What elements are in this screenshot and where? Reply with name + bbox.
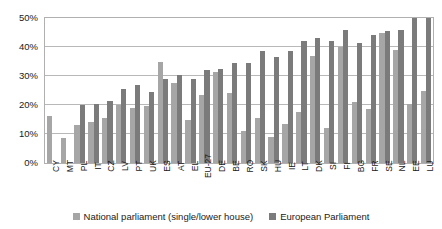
x-label-cell: MT	[59, 165, 73, 201]
x-label-cell: CZ	[100, 165, 114, 201]
chart-legend: National parliament (single/lower house)…	[0, 211, 442, 222]
y-tick-label: 20%	[19, 100, 38, 110]
bar	[135, 85, 140, 163]
bar	[80, 105, 85, 163]
bar-group	[211, 18, 225, 163]
x-label-cell: EU-27	[197, 165, 211, 201]
bar	[301, 41, 306, 163]
bar-group	[267, 18, 281, 163]
bar-group	[197, 18, 211, 163]
bar-group	[378, 18, 392, 163]
y-tick-label: 50%	[19, 13, 38, 23]
bar-group	[128, 18, 142, 163]
legend-item-national[interactable]: National parliament (single/lower house)	[73, 211, 254, 222]
bar-group	[87, 18, 101, 163]
bar	[412, 18, 417, 163]
x-label-cell: EE	[405, 165, 419, 201]
bar	[94, 104, 99, 163]
x-axis-labels: CYMTPLITCZLVPTUKESATELEU-27DEBEROSKHUIEL…	[45, 165, 433, 201]
x-label-cell: FR	[364, 165, 378, 201]
bar	[149, 92, 154, 163]
bar	[274, 57, 279, 163]
bar	[232, 63, 237, 163]
x-label-cell: SE	[378, 165, 392, 201]
bar	[260, 51, 265, 163]
bar-group	[59, 18, 73, 163]
bar-chart: 0%10%20%30%40%50% CYMTPLITCZLVPTUKESATEL…	[0, 0, 442, 229]
x-label-cell: UK	[142, 165, 156, 201]
bar-group	[405, 18, 419, 163]
bar	[426, 18, 431, 163]
bar	[288, 51, 293, 163]
y-axis: 0%10%20%30%40%50%	[0, 10, 42, 170]
x-label-cell: SI	[322, 165, 336, 201]
bar-group	[184, 18, 198, 163]
x-label-cell: DE	[211, 165, 225, 201]
legend-swatch-icon	[73, 213, 80, 220]
bar-group	[281, 18, 295, 163]
bar	[47, 116, 52, 163]
x-label-cell: IE	[281, 165, 295, 201]
bar	[177, 75, 182, 163]
bar-group	[170, 18, 184, 163]
bar-group	[142, 18, 156, 163]
x-label-cell: NL	[391, 165, 405, 201]
bar	[107, 101, 112, 163]
legend-label: European Parliament	[280, 211, 369, 222]
bar-group	[156, 18, 170, 163]
bar-group	[294, 18, 308, 163]
x-label-cell: CY	[45, 165, 59, 201]
y-tick-label: 0%	[24, 158, 38, 168]
bar	[357, 43, 362, 163]
x-label-cell: PL	[73, 165, 87, 201]
bar-group	[45, 18, 59, 163]
x-label-cell: IT	[87, 165, 101, 201]
bar	[343, 30, 348, 163]
bar-group	[239, 18, 253, 163]
y-tick-label: 10%	[19, 129, 38, 139]
bar	[204, 70, 209, 163]
bar-group	[225, 18, 239, 163]
x-label-cell: FI	[336, 165, 350, 201]
bar-group	[100, 18, 114, 163]
legend-swatch-icon	[269, 213, 276, 220]
bar	[218, 69, 223, 163]
x-label-cell: AT	[170, 165, 184, 201]
bar	[329, 41, 334, 163]
x-label-cell: PT	[128, 165, 142, 201]
bar-group	[391, 18, 405, 163]
bar-group	[253, 18, 267, 163]
bar-group	[308, 18, 322, 163]
x-label-cell: HU	[267, 165, 281, 201]
legend-item-european[interactable]: European Parliament	[269, 211, 369, 222]
x-label-cell: RO	[239, 165, 253, 201]
bar	[371, 35, 376, 163]
x-label-cell: SK	[253, 165, 267, 201]
bar-group	[364, 18, 378, 163]
bar	[191, 79, 196, 163]
bar-group	[322, 18, 336, 163]
x-label-cell: LV	[114, 165, 128, 201]
y-tick-label: 40%	[19, 42, 38, 52]
bar	[121, 89, 126, 163]
bar	[398, 30, 403, 163]
x-label-cell: LU	[419, 165, 433, 201]
x-tick-label: LU	[426, 161, 435, 172]
bar	[385, 31, 390, 163]
x-label-cell: ES	[156, 165, 170, 201]
x-label-cell: DK	[308, 165, 322, 201]
x-label-cell: EL	[184, 165, 198, 201]
bar	[246, 63, 251, 163]
bar-group	[336, 18, 350, 163]
bars-layer	[45, 18, 433, 163]
bar	[163, 79, 168, 163]
bar	[315, 38, 320, 163]
bar-group	[350, 18, 364, 163]
x-label-cell: BG	[350, 165, 364, 201]
x-label-cell: LT	[294, 165, 308, 201]
x-label-cell: BE	[225, 165, 239, 201]
bar-group	[419, 18, 433, 163]
bar-group	[73, 18, 87, 163]
bar-group	[114, 18, 128, 163]
y-tick-label: 30%	[19, 71, 38, 81]
